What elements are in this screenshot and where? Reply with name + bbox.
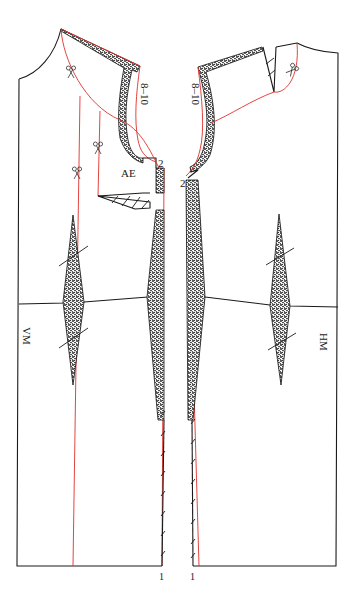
back-facing-width-label: 8–10	[190, 83, 202, 106]
back-dart	[270, 214, 290, 385]
front-center-facing	[147, 210, 164, 420]
back-shoulder-line	[263, 47, 276, 92]
front-dart	[63, 215, 84, 385]
front-shoulder-offset-label: 2	[158, 157, 164, 169]
front-facing-width-label: 8–10	[139, 83, 151, 106]
front-piece	[17, 29, 165, 566]
back-shoulder-offset-label: 2	[180, 177, 186, 189]
armhole-extension-label: AE	[121, 167, 136, 179]
back-hem-mark-label: 1	[190, 571, 195, 582]
back-center-label: HM	[318, 333, 330, 351]
scissors-icon	[285, 62, 300, 77]
front-hatch-area	[98, 196, 150, 209]
front-red-guide-2	[98, 111, 100, 196]
back-piece	[186, 43, 338, 566]
back-center-facing	[186, 180, 205, 420]
scissors-icon	[93, 142, 102, 154]
back-shoulder-notch	[188, 170, 198, 178]
front-shoulder-tab	[156, 168, 164, 193]
back-red-armhole-curve	[211, 43, 297, 123]
back-neck-facing	[190, 47, 263, 172]
pattern-diagram: 8–10 8–10 AE 2 2 VM HM 1 1	[0, 0, 351, 609]
back-hem-hatch	[191, 419, 195, 566]
front-hem-mark-label: 1	[159, 571, 164, 582]
front-center-label: VM	[21, 327, 33, 345]
scissors-icon	[72, 167, 81, 179]
